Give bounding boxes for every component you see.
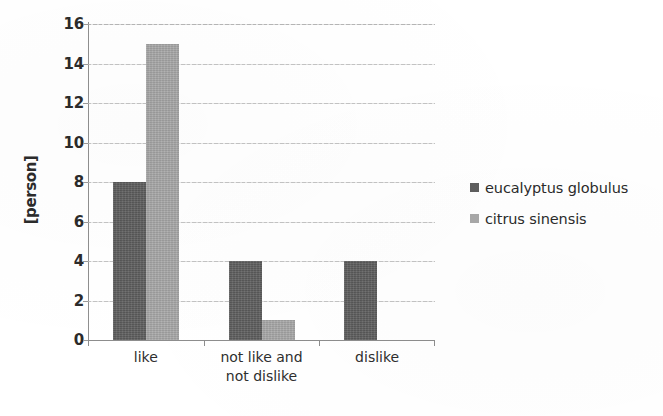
y-axis-tick-label: 14 [64,55,84,73]
x-axis-category-label: like [134,348,158,367]
gridline [88,103,435,104]
x-axis-category-label-line: dislike [355,348,399,367]
x-axis-category-label-line: not dislike [220,367,302,386]
y-axis-title-text: [person] [22,156,40,225]
bar-texture [113,182,146,340]
bar-texture [344,261,377,340]
legend-label: eucalyptus globulus [485,180,628,196]
chart-legend: eucalyptus globuluscitrus sinensis [470,172,660,234]
y-tick-mark [83,301,88,302]
x-tick-mark [434,340,435,346]
y-tick-mark [83,182,88,183]
x-axis-category-label: not like andnot dislike [220,348,302,386]
legend-swatch [470,183,479,192]
bar-texture [229,261,262,340]
y-tick-mark [83,222,88,223]
bar [113,182,146,340]
y-tick-mark [83,103,88,104]
x-tick-mark [204,340,205,346]
bar-texture [146,44,179,340]
bar-chart-figure: [person] 1614121086420 likenot like andn… [0,0,663,416]
x-tick-mark [319,340,320,346]
legend-item: citrus sinensis [470,203,660,234]
gridline [88,143,435,144]
plot-area [88,24,435,340]
y-tick-mark [83,64,88,65]
gridline [88,24,435,25]
y-axis-tick-label: 16 [64,15,84,33]
y-axis-tick-label: 10 [64,134,84,152]
x-axis-spine [88,340,435,341]
x-axis-category-label-line: not like and [220,348,302,367]
bar [262,320,295,340]
y-tick-mark [83,261,88,262]
y-axis-tick-label: 12 [64,94,84,112]
bar [146,44,179,340]
bar [344,261,377,340]
x-axis-category-labels: likenot like andnot dislikedislike [88,348,435,408]
y-axis-spine [88,22,89,340]
legend-swatch [470,214,479,223]
y-axis-tick-labels: 1614121086420 [40,15,84,345]
legend-label: citrus sinensis [485,211,587,227]
y-tick-mark [83,143,88,144]
x-tick-mark [88,340,89,346]
bar [229,261,262,340]
bar-texture [262,320,295,340]
y-tick-mark [83,24,88,25]
gridline [88,64,435,65]
legend-item: eucalyptus globulus [470,172,660,203]
x-axis-category-label-line: like [134,348,158,367]
x-axis-category-label: dislike [355,348,399,367]
